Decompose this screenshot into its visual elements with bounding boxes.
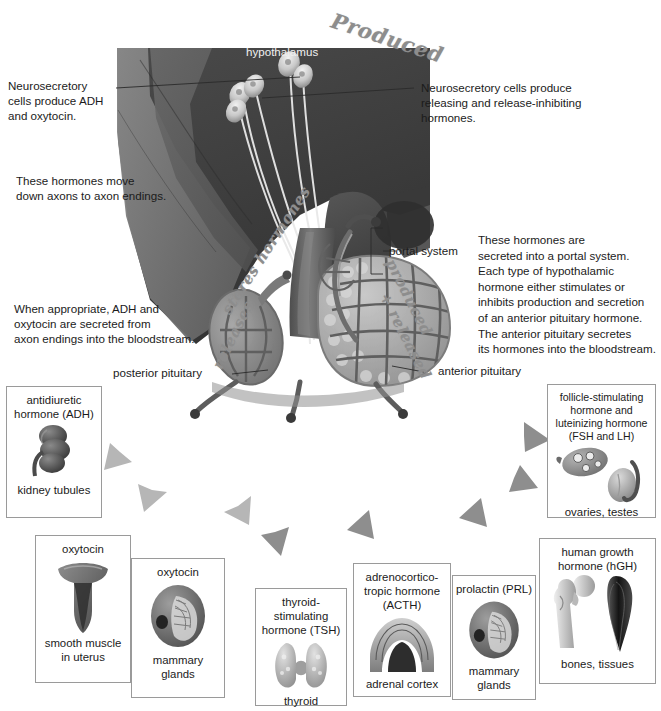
leader-neurosecretory-releasing (262, 88, 414, 98)
annotation-neurosecretory-releasing: Neurosecretory cells produce releasing a… (421, 80, 633, 126)
annotation-hormones-move-axons: These hormones move down axons to axon e… (16, 173, 206, 203)
annotation-adh-oxytocin-secreted: When appropriate, ADH and oxytocin are s… (14, 301, 224, 347)
label-posterior-pituitary: posterior pituitary (113, 366, 202, 379)
label-portal-system: portal system (389, 244, 458, 257)
label-hypothalamus: hypothalamus (246, 45, 318, 58)
annotation-portal-secretion: These hormones are secreted into a porta… (478, 232, 661, 357)
label-anterior-pituitary: anterior pituitary (438, 364, 521, 377)
annotation-neurosecretory-adh: Neurosecretory cells produce ADH and oxy… (8, 78, 126, 124)
leader-neurosecretory-adh (116, 77, 300, 88)
bracket-portal-system (371, 228, 383, 274)
leader-posterior-pituitary (232, 370, 268, 374)
